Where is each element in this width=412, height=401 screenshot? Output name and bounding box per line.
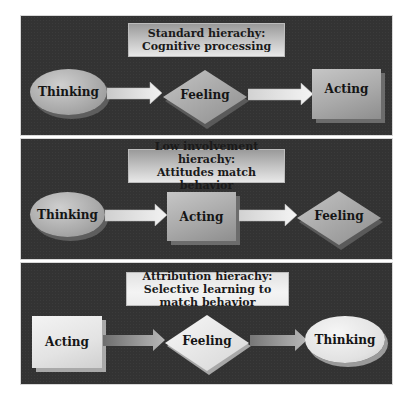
panel-standard-hierarchy: Standard hierachy: Cognitive processing … bbox=[21, 16, 392, 135]
node-acting-box: Acting bbox=[32, 316, 102, 368]
title-line-1: Standard hierachy: bbox=[129, 27, 284, 40]
panel-title: Low involvement hierachy: Attitudes matc… bbox=[128, 149, 285, 183]
panel-low-involvement-hierarchy: Low involvement hierachy: Attitudes matc… bbox=[21, 139, 392, 259]
panel-title: Standard hierachy: Cognitive processing bbox=[128, 23, 285, 57]
node-label: Acting bbox=[32, 335, 102, 349]
node-acting-box: Acting bbox=[167, 192, 236, 241]
title-line-2: Selective learning to match behavior bbox=[127, 283, 288, 309]
node-thinking-ellipse: Thinking bbox=[305, 316, 385, 363]
node-label: Thinking bbox=[305, 333, 385, 347]
node-acting-box: Acting bbox=[312, 69, 381, 119]
node-label: Feeling bbox=[295, 209, 383, 223]
node-label: Thinking bbox=[30, 208, 105, 222]
panel-attribution-hierarchy: Attribution hierachy: Selective learning… bbox=[21, 263, 392, 384]
node-feeling-diamond: Feeling bbox=[161, 69, 249, 129]
node-feeling-diamond: Feeling bbox=[163, 314, 251, 376]
node-label: Acting bbox=[167, 210, 236, 224]
title-line-1: Attribution hierachy: bbox=[127, 270, 288, 283]
node-label: Feeling bbox=[163, 334, 251, 348]
title-line-1: Low involvement hierachy: bbox=[129, 140, 284, 166]
arrow-right-icon bbox=[105, 204, 167, 226]
title-line-2: Attitudes match behavior bbox=[129, 166, 284, 192]
arrow-right-icon bbox=[239, 204, 297, 226]
node-label: Thinking bbox=[30, 85, 107, 99]
arrow-right-icon bbox=[248, 83, 313, 105]
panel-title: Attribution hierachy: Selective learning… bbox=[126, 272, 289, 306]
title-line-2: Cognitive processing bbox=[129, 40, 284, 53]
node-label: Feeling bbox=[161, 88, 249, 102]
arrow-right-icon bbox=[250, 329, 307, 351]
node-label: Acting bbox=[312, 82, 381, 96]
arrow-right-icon bbox=[103, 329, 165, 351]
node-feeling-diamond: Feeling bbox=[295, 190, 383, 250]
node-thinking-ellipse: Thinking bbox=[30, 192, 105, 237]
node-thinking-ellipse: Thinking bbox=[30, 69, 107, 115]
arrow-right-icon bbox=[107, 82, 162, 104]
